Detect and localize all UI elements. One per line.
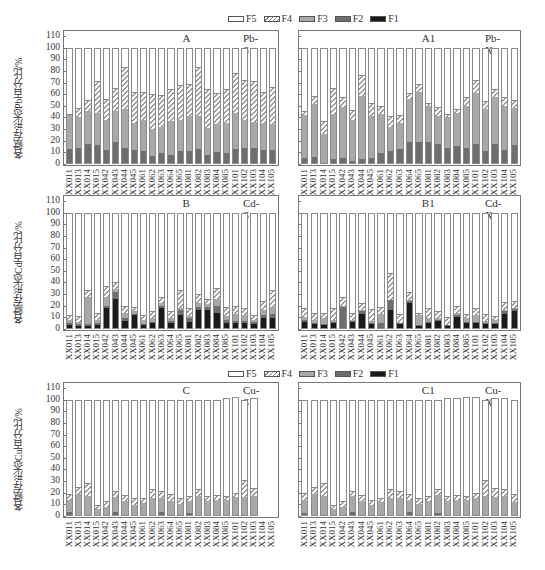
stacked-bar [158,213,165,329]
bar-segment-f2 [359,311,364,313]
bar-segment-f4 [178,290,183,307]
y-tick-mark [298,201,301,202]
stacked-bar [453,213,460,329]
stacked-bar [84,400,91,516]
bar-segment-f2 [445,325,450,326]
bar-segment-f4 [214,93,219,124]
bar-segment-f5 [224,399,229,496]
bar-segment-f5 [426,401,431,496]
bar-segment-f5 [150,214,155,312]
stacked-bar [482,400,489,516]
legend-swatch-f5 [228,16,244,22]
y-tick-label: 0 [40,158,60,168]
bar-segment-f5 [233,49,238,73]
bar-segment-f5 [178,401,183,499]
y-tick-label: 0 [40,323,60,333]
y-tick-label: 30 [40,123,60,133]
panel-label: B [183,197,190,209]
stacked-bar [121,48,128,164]
stacked-bar [140,48,147,164]
bar-segment-f3 [312,104,317,156]
stacked-bar [396,400,403,516]
bar-segment-f3 [214,299,219,306]
bar-segment-f5 [261,49,266,92]
bar-segment-f3 [196,303,201,306]
bar-segment-f5 [473,49,478,80]
bar-segment-f5 [251,49,256,82]
bar-segment-f1 [350,322,355,329]
bar-segment-f3 [388,127,393,151]
bar-segment-f4 [359,303,364,310]
stacked-bar [501,213,508,329]
bar-segment-f2 [388,515,393,516]
bar-segment-f1 [205,310,210,329]
bar-segment-f2 [214,515,219,516]
bar-segment-f3 [340,306,345,307]
y-tick-label: 90 [40,53,60,63]
bar-segment-f2 [95,323,100,325]
bar-segment-f2 [454,146,459,164]
bar-segment-f4 [251,488,256,496]
bar-segment-f2 [205,515,210,516]
bar-segment-f5 [435,49,440,107]
bar-segment-f1 [261,318,266,329]
bar-segment-f2 [251,322,256,324]
bar-segment-f1 [187,322,192,329]
bar-segment-f5 [104,401,109,501]
bar-segment-f4 [242,80,247,120]
bar-segment-f3 [378,114,383,154]
bar-segment-f3 [426,501,431,515]
stacked-bar [131,400,138,516]
bar-segment-f5 [205,49,210,90]
bar-segment-f5 [196,401,201,489]
stacked-bar [358,400,365,516]
y-tick-mark [298,36,301,37]
bar-segment-f5 [359,401,364,495]
bar-segment-f3 [159,127,164,154]
bar-segment-f4 [426,103,431,105]
bar-segment-f2 [445,148,450,164]
x-tick-label: XX103 [490,521,499,548]
bar-segment-f4 [321,483,326,496]
bar-segment-f5 [122,214,127,306]
bar-segment-f1 [454,317,459,329]
bar-segment-f2 [122,148,127,164]
bar-segment-f3 [502,496,507,515]
bar-segment-f2 [369,158,374,164]
bar-segment-f4 [76,316,81,322]
bar-segment-f4 [233,493,238,498]
bar-segment-f3 [312,494,317,515]
stacked-bar [232,397,239,516]
bar-segment-f3 [331,114,336,159]
bar-segment-f5 [407,49,412,93]
stacked-bar [158,48,165,164]
stacked-bar [269,213,276,329]
bar-segment-f5 [388,214,393,273]
bar-segment-f1 [214,313,219,329]
bar-segment-f1 [340,328,345,329]
bar-segment-f1 [416,326,421,329]
stacked-bar [511,400,518,516]
legend-label-f3: F3 [317,368,328,379]
stacked-bar [149,48,156,164]
bar-segment-f3 [159,303,164,305]
bar-segment-f3 [168,121,173,155]
bar-segment-f3 [483,109,488,151]
bar-segment-f3 [104,507,109,516]
bar-segment-f5 [416,401,421,499]
bar-segment-f4 [388,116,393,126]
bar-segment-f2 [426,322,431,323]
bar-segment-f5 [512,49,517,100]
y-tick-mark [63,164,66,165]
x-tick-label: XX061 [138,521,147,548]
bar-segment-f1 [512,311,517,329]
bar-segment-f4 [302,111,307,114]
x-tick-label: XX105 [509,334,518,361]
bar-segment-f4 [113,88,118,111]
bar-segment-f4 [312,313,317,320]
bar-segment-f4 [178,85,183,120]
bar-segment-f2 [312,157,317,164]
bar-segment-f4 [67,494,72,500]
bar-segment-f5 [483,401,488,480]
bar-segment-f3 [251,496,256,515]
